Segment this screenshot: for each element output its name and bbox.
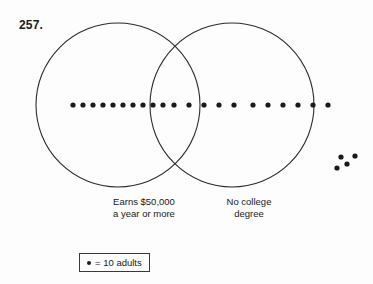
venn-dot-left-only	[100, 102, 105, 107]
set-label-no-college-degree: No college degree	[202, 196, 296, 220]
venn-dot-intersection	[231, 102, 236, 107]
venn-dot-left-only	[70, 102, 75, 107]
venn-dot-left-only	[90, 102, 95, 107]
venn-dot-right-only	[265, 102, 270, 107]
venn-dot-left-only	[120, 102, 125, 107]
venn-diagram-canvas	[0, 0, 373, 284]
venn-dot-intersection	[216, 102, 221, 107]
venn-dot-intersection	[171, 102, 176, 107]
venn-dot-outside	[344, 161, 349, 166]
venn-dot-left-only	[150, 102, 155, 107]
venn-dot-outside	[338, 154, 343, 159]
venn-dot-right-only	[295, 102, 300, 107]
venn-dot-left-only	[130, 102, 135, 107]
legend-label: = 10 adults	[95, 257, 142, 268]
venn-dot-right-only	[325, 102, 330, 107]
venn-dot-right-only	[310, 102, 315, 107]
venn-dot-right-only	[250, 102, 255, 107]
venn-dot-left-only	[110, 102, 115, 107]
venn-dot-intersection	[201, 102, 206, 107]
venn-dot-outside	[352, 153, 357, 158]
set-label-earns-50000: Earns $50,000 a year or more	[84, 196, 204, 220]
venn-dot-left-only	[160, 102, 165, 107]
venn-dots-group	[70, 102, 357, 170]
dot-icon	[87, 261, 91, 265]
venn-dot-left-only	[140, 102, 145, 107]
venn-dot-right-only	[280, 102, 285, 107]
venn-dot-outside	[334, 165, 339, 170]
legend: = 10 adults	[79, 253, 150, 272]
venn-diagram-figure: 257. Earns $50,000 a year or more No col…	[0, 0, 373, 284]
venn-dot-intersection	[186, 102, 191, 107]
venn-dot-left-only	[80, 102, 85, 107]
